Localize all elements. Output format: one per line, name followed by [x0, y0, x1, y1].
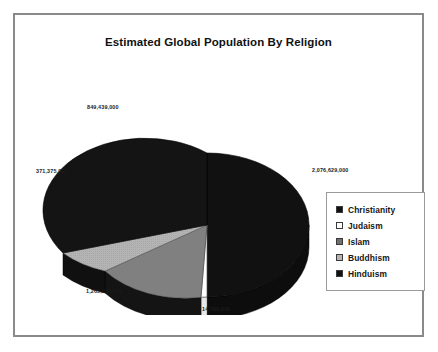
pie-chart-svg	[15, 87, 315, 315]
legend-item-hinduism: Hinduism	[336, 266, 424, 281]
legend-swatch-christianity	[336, 206, 343, 213]
chart-title: Estimated Global Population By Religion	[15, 36, 422, 48]
legend-item-islam: Islam	[336, 234, 424, 249]
legend-label-buddhism: Buddhism	[348, 253, 390, 263]
legend-label-islam: Islam	[348, 237, 370, 247]
slice-value-christianity: 2,076,629,000	[312, 167, 348, 173]
legend-label-judaism: Judaism	[348, 221, 383, 231]
slice-value-buddhism: 371,375,000	[36, 168, 68, 174]
slice-value-judaism: 14,789,000	[202, 306, 230, 312]
legend-item-buddhism: Buddhism	[336, 250, 424, 265]
legend-label-christianity: Christianity	[348, 205, 395, 215]
legend-item-judaism: Judaism	[336, 218, 424, 233]
slice-value-islam: 1,265,230,000	[86, 288, 122, 294]
chart-legend: Christianity Judaism Islam Buddhism Hind…	[326, 192, 425, 291]
chart-frame: Estimated Global Population By Religion	[13, 13, 424, 337]
pie-chart: 849,439,000 371,375,000 1,265,230,000 14…	[15, 87, 315, 315]
legend-swatch-buddhism	[336, 254, 343, 261]
legend-swatch-islam	[336, 238, 343, 245]
legend-item-christianity: Christianity	[336, 202, 424, 217]
slice-value-hinduism: 849,439,000	[87, 104, 119, 110]
legend-swatch-judaism	[336, 222, 343, 229]
legend-label-hinduism: Hinduism	[348, 269, 387, 279]
legend-swatch-hinduism	[336, 270, 343, 277]
